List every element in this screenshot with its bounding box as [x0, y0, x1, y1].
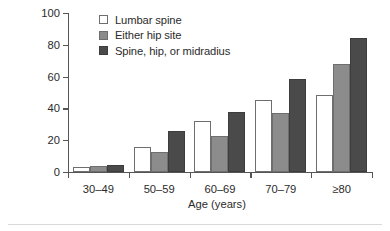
x-axis-category-label: 60–69 [204, 183, 235, 195]
y-axis-tick-label: 0 [54, 166, 60, 178]
legend-item: Lumbar spine [99, 12, 230, 28]
bar [90, 166, 107, 172]
bar [168, 131, 185, 172]
legend-swatch-icon [99, 31, 108, 40]
bar [134, 147, 151, 172]
legend-swatch-icon [99, 15, 108, 24]
bar [73, 167, 90, 172]
bar-group [311, 13, 372, 172]
bar [107, 165, 124, 172]
legend-swatch-icon [99, 46, 108, 55]
x-axis-category-label: 30–49 [83, 183, 114, 195]
bar [151, 152, 168, 172]
chart-legend: Lumbar spineEither hip siteSpine, hip, o… [99, 12, 230, 59]
x-axis-category-label: ≥80 [332, 183, 351, 195]
y-axis-tick-label: 40 [48, 102, 60, 114]
x-axis-category-label: 50–59 [144, 183, 175, 195]
x-axis-title: Age (years) [0, 198, 390, 210]
bar-chart-figure: Low bone density (percent) 020406080100 … [0, 0, 390, 231]
x-axis-tick [250, 172, 251, 178]
legend-item: Either hip site [99, 28, 230, 44]
bar [228, 112, 245, 172]
bar [194, 121, 211, 172]
bar [255, 100, 272, 172]
legend-item: Spine, hip, or midradius [99, 43, 230, 59]
bar [272, 113, 289, 172]
y-axis-tick-label: 20 [48, 134, 60, 146]
x-axis-tick [190, 172, 191, 178]
bar-group [250, 13, 311, 172]
x-axis-tick [129, 172, 130, 178]
bar [333, 64, 350, 172]
legend-item-label: Spine, hip, or midradius [115, 45, 230, 57]
legend-item-label: Lumbar spine [115, 14, 182, 26]
x-axis-category-label: 70–79 [265, 183, 296, 195]
bar [350, 38, 367, 172]
bar [316, 95, 333, 172]
bar [289, 79, 306, 172]
x-axis-tick [68, 172, 69, 178]
footer-divider [8, 224, 382, 225]
x-axis-line [68, 172, 372, 173]
y-axis-tick-label: 60 [48, 71, 60, 83]
x-axis-tick [372, 172, 373, 178]
legend-item-label: Either hip site [115, 29, 181, 41]
y-axis-tick-label: 80 [48, 39, 60, 51]
bar [211, 136, 228, 172]
y-axis-tick-label: 100 [41, 7, 60, 19]
x-axis-tick [311, 172, 312, 178]
